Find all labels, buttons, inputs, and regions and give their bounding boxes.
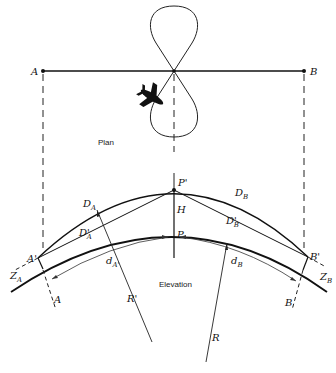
point-p-prime bbox=[172, 188, 176, 192]
arc-d-b bbox=[180, 237, 296, 281]
label-d-a: DA bbox=[82, 198, 96, 212]
label-b: B bbox=[309, 66, 317, 77]
a-prime-link bbox=[38, 258, 43, 269]
label-a-prime: A' bbox=[26, 253, 37, 264]
label-small-d-a: dA' bbox=[106, 255, 119, 269]
point-a-marker bbox=[41, 69, 45, 73]
b-prime-link bbox=[303, 257, 308, 270]
chord-d-a-prime bbox=[38, 190, 174, 258]
plan-title: Plan bbox=[98, 138, 114, 147]
crossing-point bbox=[172, 69, 176, 73]
label-d-b-prime: D'B bbox=[225, 215, 239, 229]
label-r: R bbox=[211, 332, 220, 343]
radius-r bbox=[206, 243, 227, 362]
label-b-lower: B bbox=[284, 297, 292, 308]
label-small-d-b: dB bbox=[231, 255, 243, 269]
label-a: A bbox=[30, 66, 38, 77]
label-z-a: ZA bbox=[9, 270, 22, 284]
label-p: P bbox=[176, 229, 184, 240]
label-b-prime: B' bbox=[309, 251, 320, 262]
label-p-prime: P' bbox=[177, 177, 187, 188]
radius-r-prime bbox=[97, 210, 152, 342]
point-b-marker bbox=[302, 69, 306, 73]
elevation-view: P' H P DA DB D'A D'B A' B' ZA ZB dA' dB … bbox=[9, 173, 332, 362]
diagram-canvas: A B Plan bbox=[0, 0, 336, 373]
label-a-lower: A bbox=[53, 294, 61, 305]
elevation-title: Elevation bbox=[159, 280, 192, 289]
outer-arc bbox=[38, 194, 308, 258]
label-d-a-prime: D'A bbox=[78, 227, 92, 241]
label-d-b: DB bbox=[234, 187, 248, 201]
arrow-d-a-right bbox=[162, 235, 168, 239]
label-r-prime: R' bbox=[126, 293, 137, 304]
label-z-b: ZB bbox=[319, 271, 332, 285]
label-h: H bbox=[176, 204, 186, 215]
